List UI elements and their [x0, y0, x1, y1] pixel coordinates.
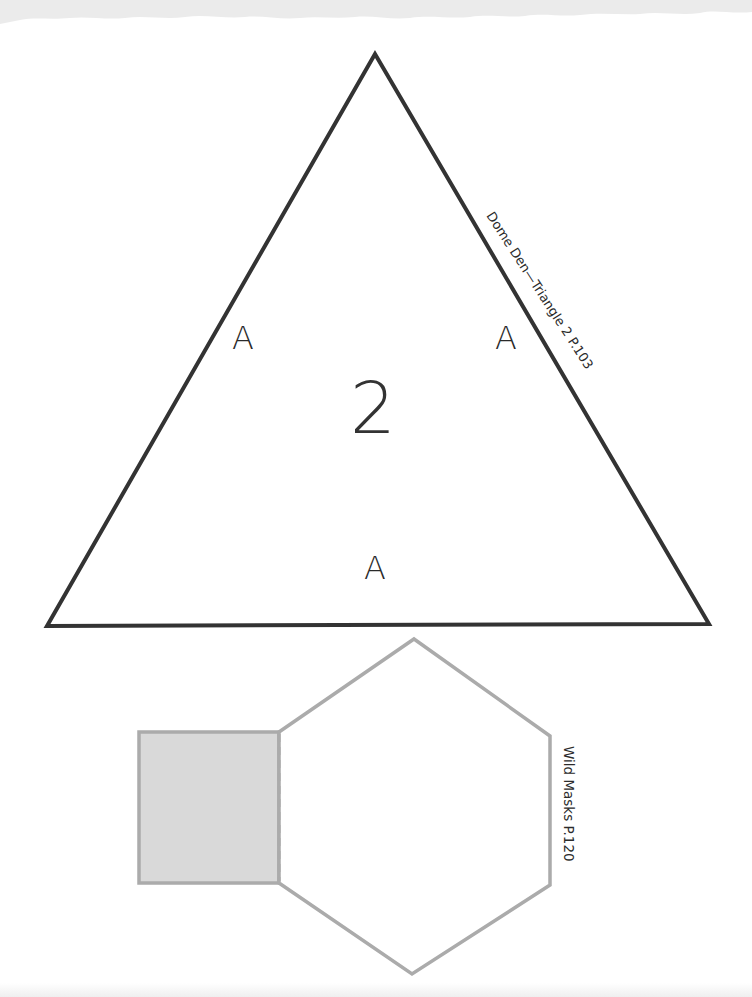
mask-hexagon-outline — [279, 639, 550, 974]
triangle-edge-label-right: A — [495, 322, 517, 354]
triangle-number: 2 — [350, 372, 396, 444]
triangle-edge-label-left: A — [232, 322, 254, 354]
mask-tab — [139, 732, 279, 883]
page-bottom-fade — [0, 983, 752, 997]
triangle-template-outline — [47, 54, 709, 626]
mask-caption: Wild Masks P.120 — [561, 746, 577, 862]
templates-canvas — [0, 0, 752, 997]
triangle-edge-label-bottom: A — [364, 552, 386, 584]
